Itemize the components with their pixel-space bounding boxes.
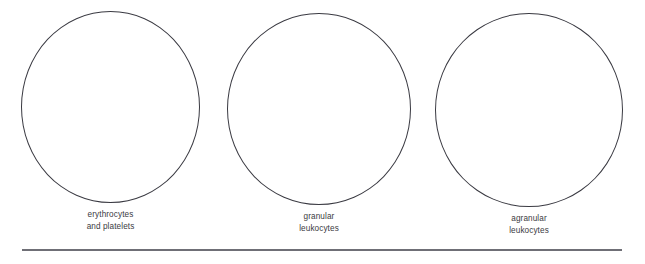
caption-line: agranular [435,213,623,225]
caption-line: leukocytes [435,225,623,237]
cell-caption-agranular-leukocytes: agranular leukocytes [435,213,623,236]
caption-line: erythrocytes [21,209,200,221]
cell-caption-granular-leukocytes: granular leukocytes [227,211,411,234]
cell-circle-granular-leukocytes [227,13,411,205]
horizontal-rule [22,249,622,251]
caption-line: granular [227,211,411,223]
caption-line: leukocytes [227,223,411,235]
cell-circle-agranular-leukocytes [435,13,623,207]
caption-line: and platelets [21,221,200,233]
blood-cell-groups-figure: erythrocytes and platelets granular leuk… [0,0,645,264]
cell-caption-erythrocytes: erythrocytes and platelets [21,209,200,232]
cell-circle-erythrocytes [21,11,200,203]
